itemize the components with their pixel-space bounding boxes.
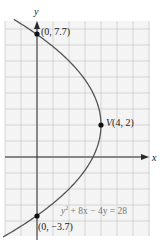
point-y-intercept-top xyxy=(34,31,39,36)
eq-rest: + 8x − 4y = 28 xyxy=(68,206,127,216)
y-axis-label: y xyxy=(33,6,39,17)
point-vertex xyxy=(98,122,103,127)
label-y-intercept-bottom: (0, −3.7) xyxy=(38,221,73,233)
parabola-figure: x y (0, 7.7) V(4, 2) (0, −3.7) y2 + 8x −… xyxy=(0,0,160,243)
vertex-coords: (4, 2) xyxy=(112,117,134,129)
point-y-intercept-bottom xyxy=(34,213,39,218)
x-axis-label: x xyxy=(151,152,157,163)
label-vertex: V(4, 2) xyxy=(106,117,134,129)
label-y-intercept-top: (0, 7.7) xyxy=(41,26,70,38)
grid-background xyxy=(5,21,150,236)
equation-label: y2 + 8x − 4y = 28 xyxy=(60,205,127,216)
